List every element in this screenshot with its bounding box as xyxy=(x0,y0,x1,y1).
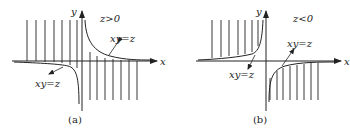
label-arrow-q4 xyxy=(282,49,294,66)
curve-label-q4: xy=z xyxy=(287,38,313,49)
y-axis-label: y xyxy=(70,6,77,17)
curve-label-q3: xy=z xyxy=(35,78,61,89)
panel-a: y x z>0 xy=z xy=z (a) xyxy=(12,6,166,125)
label-arrow-q3 xyxy=(49,67,63,74)
x-axis-label: x xyxy=(160,56,166,67)
label-arrow-q2 xyxy=(248,55,255,69)
hatch-lines-lower-right xyxy=(270,63,318,100)
caption-b: (b) xyxy=(253,114,267,125)
caption-a: (a) xyxy=(68,114,82,125)
hyperbola-branch-q2 xyxy=(198,20,263,60)
hyperbola-branch-q4 xyxy=(269,62,335,102)
curve-label-q2: xy=z xyxy=(229,69,255,80)
condition-label: z>0 xyxy=(99,13,121,24)
hyperbola-diagram: y x z>0 xy=z xy=z (a) xyxy=(0,0,350,137)
curve-label-q1: xy=z xyxy=(110,33,136,44)
condition-label: z<0 xyxy=(292,13,314,24)
hatch-lines-upper-left xyxy=(212,20,258,58)
panel-b: y x z<0 xy=z xy=z (b) xyxy=(196,6,350,125)
x-axis-label: x xyxy=(344,56,350,67)
y-axis-label: y xyxy=(255,6,262,17)
